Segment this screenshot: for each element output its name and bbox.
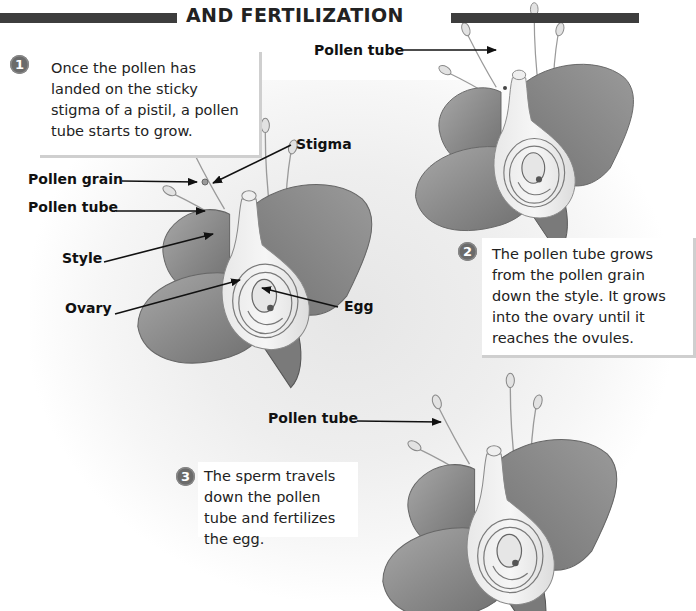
- label-stigma: Stigma: [296, 136, 352, 152]
- label-egg: Egg: [344, 298, 374, 314]
- step-number-badge: 2: [458, 242, 477, 261]
- label-style: Style: [62, 250, 102, 266]
- step-description: The sperm travels down the pollen tube a…: [198, 462, 358, 537]
- header-bar-left: [0, 13, 177, 23]
- step-number-badge: 1: [10, 55, 29, 74]
- step-number-badge: 3: [176, 467, 195, 486]
- step-description: Once the pollen has landed on the sticky…: [40, 52, 262, 158]
- section-header: AND FERTILIZATION: [0, 0, 669, 30]
- label-pollen-grain: Pollen grain: [28, 171, 123, 187]
- label-pollen-tube: Pollen tube: [28, 199, 118, 215]
- header-bar-right: [451, 13, 639, 23]
- label-pollen-tube-3: Pollen tube: [268, 410, 358, 426]
- section-title: AND FERTILIZATION: [186, 4, 404, 26]
- label-ovary: Ovary: [65, 300, 112, 316]
- label-pollen-tube-2: Pollen tube: [314, 42, 404, 58]
- step-description: The pollen tube grows from the pollen gr…: [482, 238, 696, 358]
